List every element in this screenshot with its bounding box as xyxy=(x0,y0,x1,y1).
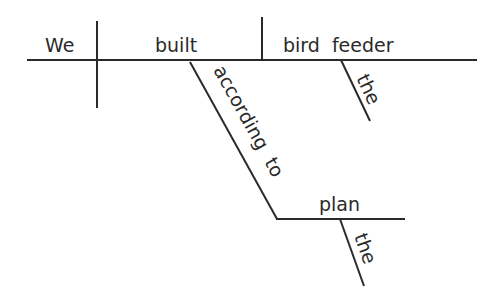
preposition-object-word: plan xyxy=(319,193,360,215)
verb-word: built xyxy=(155,34,197,56)
subject-word: We xyxy=(45,34,74,56)
direct-object-word: bird feeder xyxy=(283,34,394,56)
preposition-word: according to xyxy=(210,61,289,180)
object-modifier-word: the xyxy=(352,70,385,108)
sentence-diagram: We built bird feeder the according to pl… xyxy=(0,0,501,308)
